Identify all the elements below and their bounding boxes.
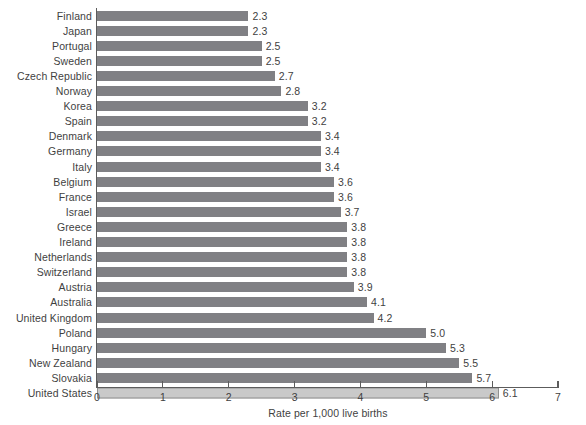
bar-value-label: 3.6 [338, 191, 353, 202]
bar-value-label: 3.7 [345, 206, 360, 217]
bar-value-label: 6.1 [503, 388, 518, 399]
x-axis-tick-label: 4 [358, 391, 364, 403]
category-label: Belgium [53, 176, 92, 187]
bar [97, 358, 459, 368]
bar-highlighted [97, 388, 499, 399]
bar-row: Belgium3.6 [0, 174, 586, 189]
bar [97, 282, 354, 292]
bar [97, 101, 308, 111]
bar-value-label: 3.4 [325, 131, 340, 142]
x-axis-tick-label: 3 [292, 391, 298, 403]
category-label: Slovakia [52, 372, 93, 383]
category-label: Austria [59, 282, 92, 293]
bar [97, 313, 374, 323]
bar-value-label: 3.8 [351, 221, 366, 232]
x-axis-tick [426, 381, 427, 388]
bar [97, 328, 426, 338]
bar [97, 207, 341, 217]
bar-row: Austria3.9 [0, 280, 586, 295]
bar [97, 192, 334, 202]
bar-row: Australia4.1 [0, 295, 586, 310]
category-label: Poland [59, 327, 92, 338]
bar-row: Greece3.8 [0, 219, 586, 234]
bar-value-label: 5.7 [476, 372, 491, 383]
bar-row: Netherlands3.8 [0, 250, 586, 265]
bar [97, 177, 334, 187]
x-axis-tick [360, 381, 361, 388]
bar [97, 116, 308, 126]
category-label: Denmark [49, 131, 92, 142]
category-label: Korea [63, 101, 92, 112]
bar-row: United Kingdom4.2 [0, 310, 586, 325]
bar-row: Denmark3.4 [0, 129, 586, 144]
bar-value-label: 2.3 [252, 25, 267, 36]
bar-value-label: 5.5 [463, 357, 478, 368]
category-label: Germany [48, 146, 92, 157]
y-axis-line [96, 8, 97, 388]
bar [97, 131, 321, 141]
bar-row: Ireland3.8 [0, 235, 586, 250]
plot-area: Finland2.3Japan2.3Portugal2.5Sweden2.5Cz… [0, 0, 586, 425]
x-axis-title: Rate per 1,000 live births [97, 407, 559, 419]
bar-value-label: 5.3 [450, 342, 465, 353]
x-axis-tick [162, 381, 163, 388]
bar-value-label: 3.4 [325, 161, 340, 172]
category-label: United Kingdom [16, 312, 92, 323]
bar-value-label: 3.8 [351, 237, 366, 248]
bar [97, 11, 248, 21]
bar [97, 86, 281, 96]
category-label: Australia [50, 297, 92, 308]
category-label: Italy [72, 161, 92, 172]
bar-row: Switzerland3.8 [0, 265, 586, 280]
bar [97, 56, 262, 66]
bar-row: Italy3.4 [0, 159, 586, 174]
category-label: Israel [66, 206, 92, 217]
bar-row: Poland5.0 [0, 325, 586, 340]
bar [97, 267, 347, 277]
bar-row: Japan2.3 [0, 23, 586, 38]
bar-row: Germany3.4 [0, 144, 586, 159]
bar-value-label: 4.2 [378, 312, 393, 323]
bar [97, 343, 446, 353]
bar [97, 71, 275, 81]
x-axis-tick-label: 2 [226, 391, 232, 403]
bar-row: Israel3.7 [0, 204, 586, 219]
bar-value-label: 5.0 [430, 327, 445, 338]
bar-value-label: 2.5 [266, 40, 281, 51]
category-label: Portugal [52, 40, 92, 51]
bar-value-label: 3.2 [312, 101, 327, 112]
bar [97, 297, 367, 307]
bar [97, 237, 347, 247]
bar-chart: Finland2.3Japan2.3Portugal2.5Sweden2.5Cz… [0, 0, 586, 425]
bar-row: Hungary5.3 [0, 340, 586, 355]
x-axis-tick [294, 381, 295, 388]
x-axis-tick [96, 381, 97, 388]
bar-row: Spain3.2 [0, 114, 586, 129]
bar-value-label: 2.7 [279, 70, 294, 81]
bar-value-label: 3.9 [358, 282, 373, 293]
bar-row: Czech Republic2.7 [0, 68, 586, 83]
x-axis-tick [228, 381, 229, 388]
category-label: Sweden [53, 55, 92, 66]
bar [97, 162, 321, 172]
x-axis-tick-label: 1 [160, 391, 166, 403]
category-label: Finland [57, 10, 92, 21]
bar-value-label: 4.1 [371, 297, 386, 308]
bar [97, 252, 347, 262]
category-label: Norway [56, 86, 92, 97]
x-axis-tick-label: 0 [94, 391, 100, 403]
x-axis-line [96, 387, 559, 388]
bar-row: Norway2.8 [0, 84, 586, 99]
bar-value-label: 3.8 [351, 252, 366, 263]
category-label: Japan [63, 25, 92, 36]
bar [97, 26, 248, 36]
category-label: Greece [57, 221, 92, 232]
category-label: Switzerland [37, 267, 92, 278]
bar-value-label: 2.3 [252, 10, 267, 21]
category-label: France [59, 191, 92, 202]
bar [97, 373, 472, 383]
bar-row: New Zealand5.5 [0, 355, 586, 370]
bar-row: France3.6 [0, 189, 586, 204]
category-label: Spain [65, 116, 92, 127]
bar-row: Portugal2.5 [0, 38, 586, 53]
